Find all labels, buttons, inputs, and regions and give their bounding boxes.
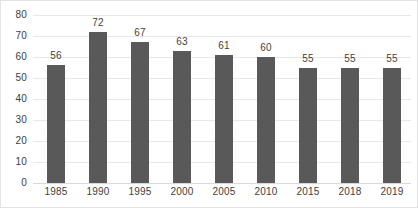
bar[interactable]: [341, 68, 359, 184]
x-tick-label: 2005: [203, 187, 245, 197]
bar[interactable]: [89, 32, 107, 183]
bar-group[interactable]: 60: [245, 15, 287, 183]
bar-value-label: 67: [134, 28, 146, 38]
bar-value-label: 55: [386, 54, 398, 64]
y-tick-label: 80: [15, 10, 27, 20]
bar-group[interactable]: 56: [35, 15, 77, 183]
bar-group[interactable]: 55: [371, 15, 413, 183]
bar[interactable]: [131, 42, 149, 183]
y-axis: 01020304050607080: [1, 1, 33, 208]
y-tick-label: 60: [15, 52, 27, 62]
bar[interactable]: [47, 65, 65, 183]
bar-value-label: 56: [50, 51, 62, 61]
x-tick-label: 2018: [329, 187, 371, 197]
y-tick-label: 0: [21, 178, 27, 188]
y-tick-label: 30: [15, 115, 27, 125]
x-tick-label: 2010: [245, 187, 287, 197]
bar-group[interactable]: 72: [77, 15, 119, 183]
bar-chart: 01020304050607080 567267636160555555 198…: [0, 0, 418, 208]
bar-group[interactable]: 67: [119, 15, 161, 183]
bar-value-label: 72: [92, 18, 104, 28]
x-tick-label: 1985: [35, 187, 77, 197]
x-tick-label: 2000: [161, 187, 203, 197]
bar-group[interactable]: 55: [329, 15, 371, 183]
bar-group[interactable]: 61: [203, 15, 245, 183]
bar-value-label: 61: [218, 41, 230, 51]
y-tick-label: 50: [15, 73, 27, 83]
y-tick-label: 40: [15, 94, 27, 104]
x-tick-label: 1995: [119, 187, 161, 197]
x-axis: 198519901995200020052010201520182019: [33, 187, 411, 207]
bar-value-label: 55: [344, 54, 356, 64]
bar-group[interactable]: 63: [161, 15, 203, 183]
bar-value-label: 60: [260, 43, 272, 53]
y-tick-label: 20: [15, 136, 27, 146]
bar-value-label: 55: [302, 54, 314, 64]
bar[interactable]: [215, 55, 233, 183]
bar[interactable]: [257, 57, 275, 183]
y-tick-label: 10: [15, 157, 27, 167]
x-tick-label: 1990: [77, 187, 119, 197]
plot-area: 567267636160555555: [33, 15, 411, 183]
bar[interactable]: [173, 51, 191, 183]
bar[interactable]: [383, 68, 401, 184]
x-tick-label: 2015: [287, 187, 329, 197]
x-tick-label: 2019: [371, 187, 413, 197]
gridline: [33, 183, 411, 184]
y-tick-label: 70: [15, 31, 27, 41]
bar-value-label: 63: [176, 37, 188, 47]
bar-group[interactable]: 55: [287, 15, 329, 183]
bar[interactable]: [299, 68, 317, 184]
